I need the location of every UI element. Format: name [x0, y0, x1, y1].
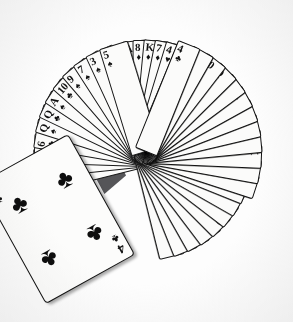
club-pip-icon: ♣ [6, 189, 32, 219]
card-suit-icon: ♠ [48, 128, 58, 135]
card-suit-icon: ♦ [137, 53, 142, 62]
photo-description: Black-and-white photograph of a full dec… [0, 0, 1, 1]
card-suit-icon: ♠ [94, 65, 102, 75]
card-suit-icon: ♣ [174, 54, 183, 65]
card-suit-icon: ♠ [73, 81, 82, 91]
card-fan-photograph: Black-and-white photograph of a full dec… [0, 0, 293, 322]
hero-card-suit-icon-bottom: ♣ [109, 232, 121, 245]
card-suit-icon: ♣ [52, 114, 63, 123]
card-suit-icon: ♣ [64, 90, 75, 100]
hero-card-index-bottom: 4 ♣ [109, 232, 127, 256]
club-pip-icon: ♣ [51, 164, 77, 194]
club-pip-icon: ♣ [82, 219, 108, 249]
club-pip-icon: ♣ [36, 244, 62, 274]
card-suit-icon: ♠ [107, 59, 114, 69]
card-suit-icon: ♠ [83, 72, 92, 82]
card-suit-icon: ♠ [57, 103, 67, 112]
hero-card-index-top: 4 ♣ [0, 181, 5, 205]
